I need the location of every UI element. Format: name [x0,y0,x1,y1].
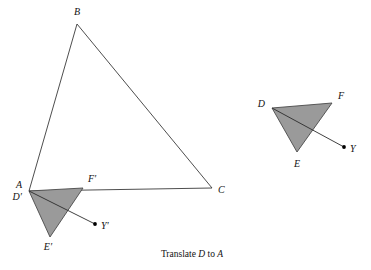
geometry-figure: A B C D F E Y D′ F′ E′ Y′ Translate D to… [0,0,371,270]
figure-background [0,0,371,270]
point-Y-dot [342,145,346,149]
vertex-label-C: C [218,184,225,195]
caption-to-point: A [216,249,223,259]
vertex-label-B: B [74,6,80,17]
vertex-label-D: D [257,98,266,109]
vertex-label-A: A [15,179,23,190]
vertex-label-E: E [293,158,300,169]
vertex-label-F: F [337,90,345,101]
vertex-label-D-prime: D′ [12,191,23,202]
point-Y-prime-dot [93,222,97,226]
caption-from-point: D [197,249,205,259]
caption-mid-text: to [205,249,217,259]
vertex-label-F-prime: F′ [87,173,97,184]
caption-pre-text: Translate [161,249,198,259]
point-label-Y-prime: Y′ [101,220,110,231]
figure-caption: Translate D to A [161,249,223,259]
vertex-label-E-prime: E′ [43,241,53,252]
